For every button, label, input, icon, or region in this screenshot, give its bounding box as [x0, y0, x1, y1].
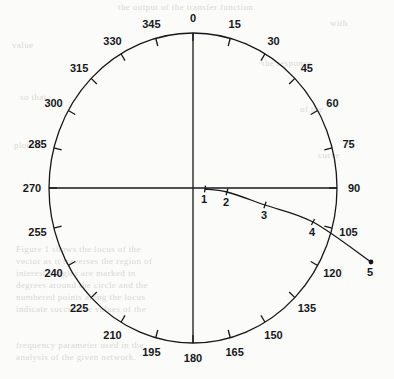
angular-tick: [156, 330, 158, 338]
angular-tick: [91, 292, 97, 298]
angular-tick-label: 330: [103, 35, 121, 47]
angular-tick: [228, 38, 230, 46]
polar-plot: 0153045607590105120135150165180195210225…: [0, 0, 394, 379]
data-point-marker-endpoint: [369, 260, 374, 265]
angular-tick: [324, 148, 332, 150]
angular-tick-label: 150: [264, 329, 282, 341]
angular-tick: [156, 38, 158, 46]
angular-tick-label: 165: [225, 346, 243, 358]
angular-tick-label: 105: [339, 226, 357, 238]
angular-tick: [289, 78, 295, 84]
angular-tick: [261, 315, 265, 322]
data-point-label: 5: [367, 266, 373, 278]
angular-tick-label: 60: [326, 97, 338, 109]
angular-tick-label: 0: [190, 12, 196, 24]
angular-tick: [228, 330, 230, 338]
angular-tick: [54, 148, 62, 150]
angular-tick: [261, 54, 265, 61]
angular-tick: [68, 111, 75, 115]
angular-tick: [54, 226, 62, 228]
angular-tick-label: 300: [44, 97, 62, 109]
data-point-label: 1: [201, 193, 207, 205]
data-point-label: 4: [309, 226, 316, 238]
angular-tick-label: 315: [70, 62, 88, 74]
angular-tick-label: 225: [70, 302, 88, 314]
angular-tick-label: 255: [28, 226, 46, 238]
angular-tick: [324, 226, 332, 228]
angular-tick-label: 270: [23, 182, 41, 194]
figure-canvas: the output of the transfer functionwithv…: [0, 0, 394, 379]
angular-tick-label: 45: [301, 62, 313, 74]
angular-tick-label: 15: [229, 18, 241, 30]
angular-tick-label: 345: [142, 18, 160, 30]
data-point-label: 2: [223, 196, 229, 208]
angular-tick-label: 120: [323, 267, 341, 279]
angular-tick-label: 195: [142, 346, 160, 358]
angular-tick-label: 180: [184, 352, 202, 364]
angular-tick: [91, 78, 97, 84]
angular-tick: [121, 315, 125, 322]
angular-tick: [68, 262, 75, 266]
angular-tick: [311, 111, 318, 115]
angular-tick: [289, 292, 295, 298]
angular-tick-label: 135: [298, 302, 316, 314]
angular-tick: [121, 54, 125, 61]
angular-tick-label: 240: [44, 267, 62, 279]
data-point-label: 3: [261, 209, 267, 221]
angular-tick-label: 90: [348, 182, 360, 194]
data-point-marker: [205, 186, 206, 193]
angular-tick: [311, 262, 318, 266]
angular-tick-label: 210: [103, 329, 121, 341]
data-point-marker: [226, 189, 228, 196]
angular-tick-label: 75: [342, 138, 354, 150]
angular-tick-label: 30: [267, 35, 279, 47]
angular-tick-label: 285: [28, 138, 46, 150]
